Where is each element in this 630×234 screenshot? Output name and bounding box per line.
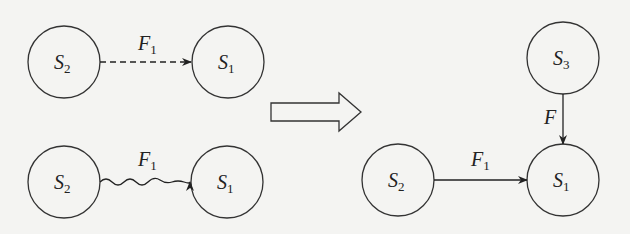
hollow-right-arrow-icon <box>271 93 361 131</box>
left-bottom-group: S2 S1 F1 <box>28 146 263 218</box>
node-s1-right-label: S1 <box>553 169 570 194</box>
node-s2-right-label: S2 <box>388 169 405 194</box>
left-top-group: S2 S1 F1 <box>28 26 264 98</box>
node-s3-label: S3 <box>553 47 570 72</box>
edge-f1-right-label: F1 <box>470 148 490 173</box>
node-s2-top-label: S2 <box>54 51 71 76</box>
edge-f1-bottom-label: F1 <box>137 148 157 173</box>
node-s2-bottom-label: S2 <box>54 171 71 196</box>
force-diagram: S2 S1 F1 S2 S1 F1 S3 S1 S2 F F1 <box>0 0 630 234</box>
wavy-force-arrow <box>100 178 190 185</box>
node-s1-bottom-label: S1 <box>217 171 234 196</box>
right-group: S3 S1 S2 F F1 <box>362 22 599 216</box>
edge-f1-top-label: F1 <box>137 32 157 57</box>
node-s1-top-label: S1 <box>218 51 235 76</box>
edge-f-label: F <box>543 106 557 128</box>
